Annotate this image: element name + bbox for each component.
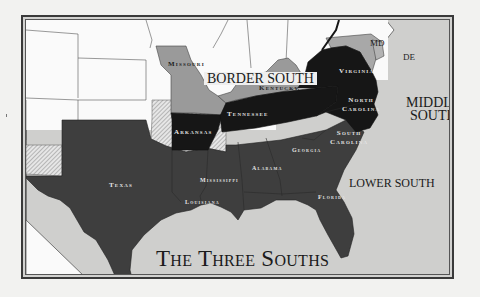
label-north-carolina-line2: Carolina (342, 105, 380, 114)
label-missouri: Missouri (168, 60, 205, 68)
map-canvas: Missouri Kentucky MD DE Virginia North C… (25, 19, 450, 275)
label-louisiana: Louisiana (185, 199, 220, 205)
label-delaware: DE (403, 52, 415, 62)
map-frame: Missouri Kentucky MD DE Virginia North C… (21, 15, 454, 279)
label-virginia: Virginia (339, 67, 374, 75)
scan-artifact (6, 114, 7, 117)
label-maryland: MD (370, 38, 385, 48)
label-south-carolina: South Carolina (330, 129, 368, 147)
label-north-carolina: North Carolina (342, 96, 380, 114)
new-mexico-territory-hatched (26, 145, 62, 176)
label-south-carolina-line2: Carolina (330, 138, 368, 147)
label-florida: Florida (318, 194, 346, 200)
region-label-lower-south: LOWER SOUTH (349, 177, 435, 190)
region-label-middle-south-line2: SOUTH (406, 109, 450, 122)
label-georgia: Georgia (292, 147, 321, 153)
three-souths-map (26, 20, 450, 275)
map-title: The Three Souths (156, 246, 329, 272)
label-alabama: Alabama (252, 165, 283, 171)
region-label-border-south: BORDER SOUTH (204, 72, 317, 85)
label-texas: Texas (109, 181, 133, 189)
label-south-carolina-line1: South (330, 129, 368, 138)
region-label-middle-south: MIDDLE SOUTH (406, 96, 450, 122)
label-tennessee: Tennessee (227, 110, 269, 118)
label-arkansas: Arkansas (174, 128, 213, 136)
label-north-carolina-line1: North (342, 96, 380, 105)
label-mississippi: Mississippi (200, 177, 239, 183)
